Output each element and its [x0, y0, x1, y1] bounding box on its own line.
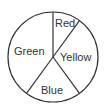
- slice-label-yellow: Yellow: [60, 51, 91, 63]
- slice-label-green: Green: [14, 45, 45, 57]
- pie-chart: Red Yellow Blue Green: [0, 0, 107, 110]
- slice-label-blue: Blue: [41, 84, 63, 96]
- slice-label-red: Red: [55, 17, 75, 29]
